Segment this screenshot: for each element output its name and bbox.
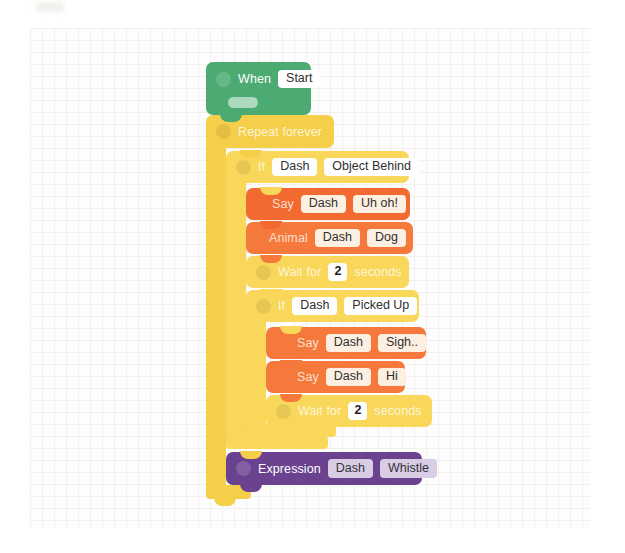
block-program: Repeat forever When Start If Dash Object…	[0, 0, 625, 553]
block-wait-1[interactable]: Wait for 2 seconds	[246, 256, 409, 288]
expression-label: Expression	[258, 462, 321, 476]
say-label: Say	[272, 197, 294, 211]
say-subject-value[interactable]: Dash	[301, 195, 346, 214]
block-handle-icon	[216, 72, 231, 87]
when-event-value[interactable]: Start	[278, 70, 320, 89]
wait-suffix-label: seconds	[354, 265, 401, 279]
bottom-nub	[240, 484, 262, 492]
say-text-value[interactable]: Hi	[378, 368, 406, 387]
block-handle-icon	[236, 461, 251, 476]
block-row: Say Dash Sigh..	[266, 327, 437, 359]
block-animal-dog[interactable]: Animal Dash Dog	[246, 222, 413, 254]
if-condition-value[interactable]: Object Behind	[324, 158, 419, 177]
say-label: Say	[297, 336, 319, 350]
wait-suffix-label: seconds	[374, 404, 421, 418]
expression-kind-value[interactable]: Whistle	[380, 459, 437, 478]
animal-subject-value[interactable]: Dash	[315, 229, 360, 248]
block-say-sigh[interactable]: Say Dash Sigh..	[266, 327, 426, 359]
say-text-value[interactable]: Uh oh!	[353, 195, 406, 214]
when-label: When	[238, 72, 271, 86]
if-object-behind-left-arm	[226, 180, 246, 447]
block-row: Animal Dash Dog	[246, 222, 417, 254]
expression-subject-value[interactable]: Dash	[328, 459, 373, 478]
block-row: Wait for 2 seconds	[246, 256, 413, 288]
block-handle-icon	[216, 124, 231, 139]
repeat-forever-label: Repeat forever	[238, 125, 322, 139]
when-empty-slot[interactable]	[228, 97, 258, 108]
block-row: Repeat forever	[206, 115, 333, 148]
repeat-forever-left-arm	[206, 145, 226, 497]
if-label: If	[258, 160, 265, 174]
block-handle-icon	[256, 299, 271, 314]
say-label: Say	[297, 370, 319, 384]
wait-seconds-value[interactable]: 2	[328, 263, 347, 282]
block-wait-2[interactable]: Wait for 2 seconds	[266, 395, 432, 427]
say-subject-value[interactable]: Dash	[326, 334, 371, 353]
wait-prefix-label: Wait for	[298, 404, 341, 418]
say-subject-value[interactable]: Dash	[326, 368, 371, 387]
if-picked-up-left-arm	[246, 319, 266, 436]
block-row: When Start	[206, 64, 331, 94]
wait-prefix-label: Wait for	[278, 265, 321, 279]
animal-label: Animal	[269, 231, 308, 245]
block-handle-icon	[236, 160, 251, 175]
animal-sound-value[interactable]: Dog	[367, 229, 406, 248]
say-text-value[interactable]: Sigh..	[378, 334, 426, 353]
if-label: If	[278, 299, 285, 313]
block-say-hi[interactable]: Say Dash Hi	[266, 361, 405, 393]
block-expression-whistle[interactable]: Expression Dash Whistle	[226, 452, 422, 485]
block-handle-icon	[256, 265, 271, 280]
if-subject-value[interactable]: Dash	[292, 297, 337, 316]
repeat-forever-bottom-nub	[214, 498, 236, 506]
if-subject-value[interactable]: Dash	[272, 158, 317, 177]
block-row: If Dash Picked Up	[246, 290, 428, 322]
wait-seconds-value[interactable]: 2	[348, 402, 367, 421]
block-when-start[interactable]: When Start	[206, 62, 311, 115]
if-object-behind-bottom-arm	[226, 436, 328, 449]
if-condition-value[interactable]: Picked Up	[344, 297, 417, 316]
block-row: If Dash Object Behind	[226, 151, 430, 183]
block-row: Say Dash Hi	[266, 361, 417, 393]
block-say-uh-oh[interactable]: Say Dash Uh oh!	[246, 188, 410, 220]
block-row: Say Dash Uh oh!	[246, 188, 417, 220]
block-if-picked-up[interactable]: If Dash Picked Up	[246, 290, 419, 322]
block-row: Wait for 2 seconds	[266, 395, 433, 427]
block-repeat-forever[interactable]: Repeat forever	[206, 115, 334, 148]
block-if-object-behind[interactable]: If Dash Object Behind	[226, 151, 409, 183]
block-handle-icon	[276, 404, 291, 419]
block-row: Expression Dash Whistle	[226, 452, 448, 485]
